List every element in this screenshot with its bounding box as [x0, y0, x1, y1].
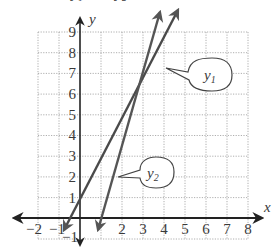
svg-text:8: 8 [244, 221, 252, 237]
svg-text:4: 4 [160, 221, 168, 237]
svg-text:7: 7 [223, 221, 231, 237]
svg-text:3: 3 [69, 148, 77, 164]
svg-text:7: 7 [69, 65, 77, 81]
callout-y1: y1 [166, 58, 232, 91]
svg-text:2: 2 [118, 221, 126, 237]
svg-text:9: 9 [69, 24, 77, 40]
y-tick-labels: 9 8 7 6 5 4 3 2 1 −1 [62, 24, 78, 245]
svg-text:4: 4 [69, 127, 77, 143]
x-axis-label: x [263, 199, 271, 215]
line-y1 [64, 10, 178, 230]
svg-text:8: 8 [69, 45, 77, 61]
header-fragment: y₁ = ... y₂ [70, 0, 126, 1]
svg-text:6: 6 [69, 86, 77, 102]
y-axis-label: y [87, 11, 96, 27]
svg-text:2: 2 [69, 169, 77, 185]
svg-text:−2: −2 [26, 221, 42, 237]
line-graph: y₁ = ... y₂ x y 9 8 7 6 5 4 3 2 [0, 0, 274, 251]
x-tick-labels: −2 −1 2 3 4 5 6 7 8 [26, 221, 252, 237]
svg-text:5: 5 [69, 107, 77, 123]
svg-text:5: 5 [181, 221, 189, 237]
svg-text:3: 3 [139, 221, 147, 237]
callout-y2: y2 [118, 157, 174, 188]
svg-text:1: 1 [69, 190, 77, 206]
svg-text:6: 6 [202, 221, 210, 237]
svg-text:−1: −1 [49, 221, 65, 237]
